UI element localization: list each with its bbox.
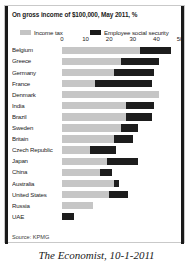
category-label: Czech Republic (12, 146, 60, 153)
category-label: Greece (12, 57, 60, 64)
bar-row: Australia (12, 178, 180, 189)
category-label: United States (12, 191, 60, 198)
bar-segment-social-security (114, 180, 119, 187)
category-label: UAE (12, 213, 60, 220)
bar-segment-income-tax (62, 113, 126, 120)
stacked-bar (62, 169, 180, 176)
chart-title: On gross income of $100,000, May 2011, % (12, 11, 137, 18)
category-label: India (12, 102, 60, 109)
bar-row: France (12, 78, 180, 89)
stacked-bar (62, 113, 180, 120)
left-rule-decoration (5, 6, 8, 244)
x-tick-label: 40 (153, 36, 160, 42)
bar-segment-income-tax (62, 146, 90, 153)
stacked-bar (62, 47, 180, 54)
bar-segment-income-tax (62, 91, 159, 98)
bar-segment-income-tax (62, 102, 126, 109)
stacked-bar (62, 191, 180, 198)
bar-segment-social-security (114, 69, 154, 76)
bar-segment-social-security (62, 213, 74, 220)
plot-area: 01020304050 BelgiumGreeceGermanyFranceDe… (12, 36, 180, 232)
economist-chart-figure: On gross income of $100,000, May 2011, %… (0, 0, 193, 269)
x-tick-label: 10 (82, 36, 89, 42)
stacked-bar (62, 102, 180, 109)
bar-segment-social-security (126, 113, 152, 120)
x-tick-label: 30 (129, 36, 136, 42)
legend-item-income-tax: Income tax (20, 23, 63, 32)
bar-segment-social-security (107, 158, 138, 165)
bar-segment-income-tax (62, 169, 100, 176)
x-tick-label: 50 (177, 36, 184, 42)
bar-segment-income-tax (62, 202, 93, 209)
bar-row: Britain (12, 134, 180, 145)
category-label: Belgium (12, 46, 60, 53)
bar-segment-social-security (109, 191, 128, 198)
bar-segment-income-tax (62, 180, 114, 187)
bar-rows: BelgiumGreeceGermanyFranceDenmarkIndiaBr… (12, 45, 180, 231)
stacked-bar (62, 69, 180, 76)
bar-segment-social-security (121, 124, 138, 131)
category-label: China (12, 168, 60, 175)
bar-segment-social-security (95, 80, 152, 87)
bar-row: United States (12, 189, 180, 200)
stacked-bar (62, 146, 180, 153)
category-label: Britain (12, 135, 60, 142)
stacked-bar (62, 213, 180, 220)
bar-row: Belgium (12, 45, 180, 56)
stacked-bar (62, 158, 180, 165)
bar-segment-income-tax (62, 47, 140, 54)
category-label: France (12, 80, 60, 87)
legend-swatch-social-security (90, 30, 101, 35)
bar-segment-income-tax (62, 158, 107, 165)
category-label: Australia (12, 180, 60, 187)
chart-source: Source: KPMG (12, 234, 49, 240)
stacked-bar (62, 91, 180, 98)
stacked-bar (62, 202, 180, 209)
bar-row: Germany (12, 67, 180, 78)
bar-segment-social-security (140, 47, 171, 54)
bar-segment-income-tax (62, 191, 109, 198)
category-label: Russia (12, 202, 60, 209)
legend-swatch-income-tax (20, 30, 31, 35)
bar-row: Czech Republic (12, 145, 180, 156)
stacked-bar (62, 124, 180, 131)
bar-row: Russia (12, 200, 180, 211)
bar-row: Denmark (12, 89, 180, 100)
bar-row: China (12, 167, 180, 178)
stacked-bar (62, 80, 180, 87)
category-label: Sweden (12, 124, 60, 131)
x-tick-label: 0 (60, 36, 63, 42)
bar-segment-income-tax (62, 69, 114, 76)
stacked-bar (62, 180, 180, 187)
bar-segment-social-security (90, 146, 116, 153)
category-label: Denmark (12, 91, 60, 98)
bar-segment-social-security (100, 169, 112, 176)
bar-segment-income-tax (62, 135, 114, 142)
bar-row: Brazil (12, 112, 180, 123)
figure-caption: The Economist, 10-1-2011 (0, 249, 193, 261)
chart-legend: Income tax Employee social security (12, 23, 180, 32)
category-label: Brazil (12, 113, 60, 120)
stacked-bar (62, 135, 180, 142)
bar-row: India (12, 100, 180, 111)
chart-card: On gross income of $100,000, May 2011, %… (4, 5, 185, 243)
bar-row: UAE (12, 211, 180, 222)
bar-row: Sweden (12, 123, 180, 134)
stacked-bar (62, 58, 180, 65)
bar-segment-social-security (114, 135, 133, 142)
x-tick-label: 20 (106, 36, 113, 42)
x-axis-tick-labels: 01020304050 (12, 36, 180, 45)
bar-row: Japan (12, 156, 180, 167)
bar-segment-income-tax (62, 58, 121, 65)
legend-item-social-security: Employee social security (90, 23, 169, 32)
bar-segment-social-security (121, 58, 159, 65)
category-label: Germany (12, 69, 60, 76)
category-label: Japan (12, 157, 60, 164)
bar-row: Greece (12, 56, 180, 67)
bar-segment-social-security (126, 102, 154, 109)
bar-segment-income-tax (62, 124, 121, 131)
bar-segment-income-tax (62, 80, 95, 87)
